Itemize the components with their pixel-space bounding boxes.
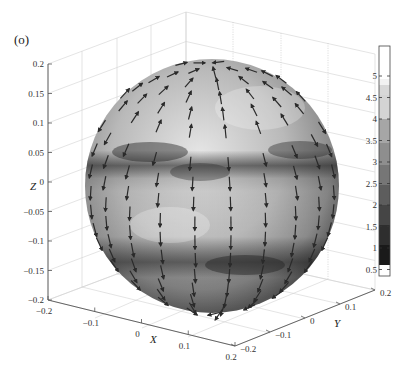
z-tick-label: 0.15	[28, 89, 44, 99]
y-tick-label: 0	[310, 316, 315, 326]
x-tick-label: 0.2	[225, 352, 236, 362]
colorbar-tick-label: 1	[373, 243, 378, 253]
colorbar-tick-label: 3.5	[366, 136, 378, 146]
z-tick-label: −0.05	[23, 207, 44, 217]
y-tick-label: 0.2	[380, 288, 391, 298]
y-axis-label: Y	[334, 317, 342, 329]
x-tick-label: −0.1	[83, 318, 99, 328]
colorbar-tick-label: 0.5	[366, 265, 378, 275]
y-tick-label: −0.2	[240, 344, 256, 354]
x-tick-label: 0.1	[179, 341, 190, 351]
colorbar-tick-label: 3	[373, 157, 378, 167]
z-tick-label: 0	[40, 177, 45, 187]
z-tick-label: −0.15	[23, 266, 44, 276]
y-tick-label: −0.1	[275, 330, 291, 340]
sphere-surface	[85, 59, 339, 320]
colorbar-tick-label: 5	[373, 71, 378, 81]
z-tick-label: −0.1	[28, 236, 44, 246]
colorbar-tick-label: 4	[373, 114, 378, 124]
x-axis-label: X	[149, 333, 158, 345]
sphere-quiver-plot: 0.20.150.10.050−0.05−0.1−0.15−0.2 −0.2−0…	[0, 0, 418, 368]
z-axis-label: Z	[30, 180, 37, 192]
colorbar-tick-label: 1.5	[366, 222, 378, 232]
z-tick-label: 0.1	[33, 118, 44, 128]
colorbar-tick-label: 2.5	[366, 179, 378, 189]
y-tick-label: 0.1	[345, 302, 356, 312]
x-tick-label: −0.2	[36, 306, 52, 316]
z-tick-label: −0.2	[28, 295, 44, 305]
z-tick-label: 0.05	[28, 148, 44, 158]
colorbar-tick-label: 4.5	[366, 93, 378, 103]
colorbar: 54.543.532.521.510.5	[366, 46, 390, 276]
z-tick-label: 0.2	[33, 59, 44, 69]
colorbar-tick-label: 2	[373, 200, 378, 210]
x-tick-label: 0	[135, 329, 140, 339]
